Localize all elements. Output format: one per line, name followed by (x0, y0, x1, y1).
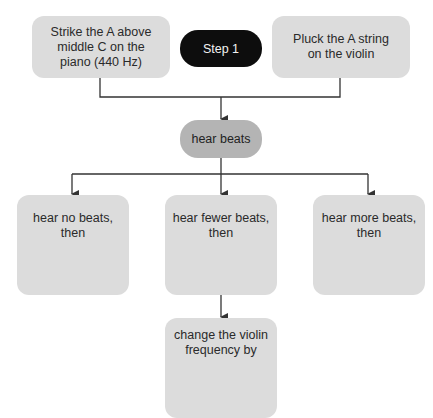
node-hear-beats-label: hear beats (191, 132, 250, 146)
node-fewer-beats: hear fewer beats, then (165, 195, 277, 295)
node-strike-piano-label: Strike the A above middle C on the piano… (46, 25, 156, 70)
node-no-beats-label: hear no beats, then (31, 211, 115, 241)
node-change-frequency: change the violin frequency by (165, 318, 277, 418)
node-pluck-violin-label: Pluck the A string on the violin (290, 32, 392, 62)
node-hear-beats: hear beats (180, 120, 262, 158)
node-strike-piano: Strike the A above middle C on the piano… (32, 16, 170, 78)
node-pluck-violin: Pluck the A string on the violin (272, 16, 410, 78)
node-no-beats: hear no beats, then (17, 195, 129, 295)
node-more-beats: hear more beats, then (313, 195, 425, 295)
edge-piano-to-join (100, 78, 340, 97)
node-fewer-beats-label: hear fewer beats, then (171, 211, 271, 241)
node-more-beats-label: hear more beats, then (319, 211, 419, 241)
node-change-frequency-label: change the violin frequency by (173, 328, 269, 358)
step-badge: Step 1 (180, 30, 262, 67)
step-badge-label: Step 1 (203, 42, 239, 56)
